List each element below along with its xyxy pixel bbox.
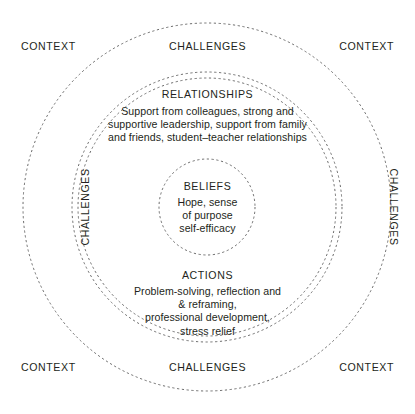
context-label-top-left: CONTEXT: [21, 40, 76, 52]
relationships-line-1: Support from colleagues, strong and: [43, 105, 373, 118]
relationships-title: RELATIONSHIPS: [43, 88, 373, 101]
beliefs-body: Hope, sense of purpose self-efficacy: [128, 196, 288, 235]
challenges-label-top: CHALLENGES: [169, 40, 246, 52]
challenges-label-bottom: CHALLENGES: [169, 361, 246, 373]
context-label-top-right: CONTEXT: [339, 40, 394, 52]
relationships-line-3: and friends, student–teacher relationshi…: [43, 131, 373, 144]
actions-line-2: & reframing,: [58, 298, 358, 311]
beliefs-title: BELIEFS: [128, 180, 288, 193]
actions-layer: ACTIONS Problem-solving, reflection and …: [58, 269, 358, 338]
relationships-line-2: supportive leadership, support from fami…: [43, 118, 373, 131]
beliefs-line-1: Hope, sense: [128, 196, 288, 209]
context-label-bottom-right: CONTEXT: [339, 361, 394, 373]
beliefs-line-3: self-efficacy: [128, 222, 288, 235]
actions-line-3: professional development,: [58, 311, 358, 324]
beliefs-line-2: of purpose: [128, 209, 288, 222]
context-label-bottom-left: CONTEXT: [21, 361, 76, 373]
actions-body: Problem-solving, reflection and & refram…: [58, 285, 358, 338]
challenges-label-left: CHALLENGES: [79, 168, 91, 245]
challenges-label-right: CHALLENGES: [388, 168, 400, 245]
beliefs-layer: BELIEFS Hope, sense of purpose self-effi…: [128, 180, 288, 236]
resilience-diagram: RELATIONSHIPS Support from colleagues, s…: [0, 0, 415, 414]
relationships-body: Support from colleagues, strong and supp…: [43, 105, 373, 144]
actions-line-4: stress relief: [58, 325, 358, 338]
actions-line-1: Problem-solving, reflection and: [58, 285, 358, 298]
actions-title: ACTIONS: [58, 269, 358, 282]
relationships-layer: RELATIONSHIPS Support from colleagues, s…: [43, 88, 373, 145]
